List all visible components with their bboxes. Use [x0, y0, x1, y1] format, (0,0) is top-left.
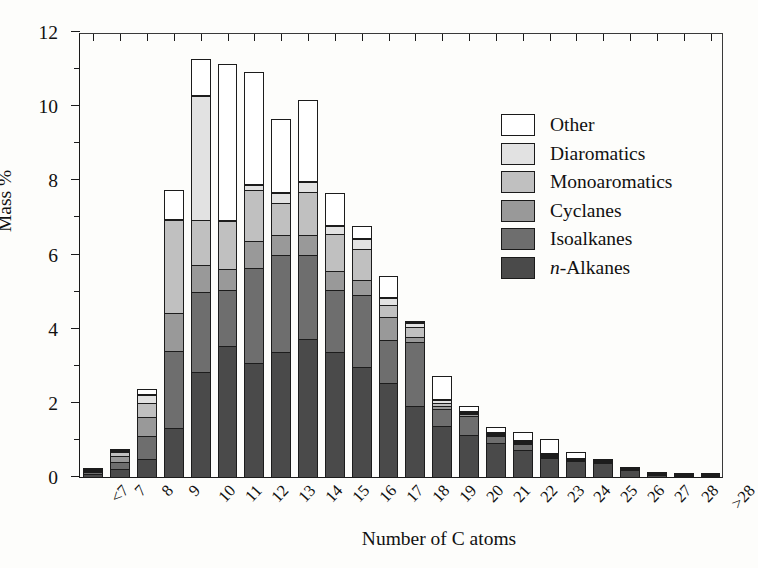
bar-segment	[191, 292, 211, 374]
bar-segment	[218, 290, 238, 347]
legend-swatch	[501, 200, 535, 222]
x-axis-tick-label: 22	[536, 481, 562, 507]
legend-label: Isoalkanes	[550, 228, 632, 250]
bar-segment	[352, 295, 372, 367]
bar-column	[593, 459, 613, 477]
bar-segment	[325, 290, 345, 353]
bar-segment	[352, 367, 372, 478]
bar-segment	[218, 221, 238, 269]
x-axis-tick	[201, 34, 202, 41]
bar-segment	[164, 351, 184, 429]
bar-segment	[218, 346, 238, 478]
bar-segment	[298, 100, 318, 182]
bar-segment	[218, 64, 238, 222]
bar-segment	[513, 450, 533, 478]
x-axis-tick-label: 13	[294, 481, 320, 507]
y-axis-tick-label: 4	[48, 319, 58, 341]
bar-segment	[271, 119, 291, 193]
x-axis-tick-label: 15	[348, 481, 374, 507]
bar-segment	[352, 226, 372, 239]
x-axis-tick	[254, 34, 255, 41]
y-axis-tick-label: 6	[48, 245, 58, 267]
x-axis-tick-label: 10	[214, 481, 240, 507]
y-axis-title: Mass %	[0, 170, 16, 232]
bar-segment	[164, 428, 184, 478]
bar-segment	[486, 443, 506, 478]
bar-column	[674, 473, 694, 477]
bar-segment	[325, 234, 345, 271]
x-axis-tick	[657, 34, 658, 41]
bar-segment	[674, 476, 694, 478]
y-axis-minor-tick	[74, 439, 80, 440]
bar-segment	[191, 220, 211, 266]
x-axis-tick	[415, 34, 416, 41]
bar-segment	[110, 469, 130, 478]
y-axis-tick-label: 8	[48, 170, 58, 192]
x-axis-tick-label: 25	[616, 481, 642, 507]
bar-segment	[459, 416, 479, 436]
bar-column	[647, 472, 667, 477]
x-axis-tick-label: 20	[482, 481, 508, 507]
x-axis-tick-label: 21	[509, 481, 535, 507]
y-axis-minor-tick	[74, 142, 80, 143]
x-axis-tick	[603, 34, 604, 41]
x-axis-tick-label: 18	[429, 481, 455, 507]
bar-segment	[191, 372, 211, 478]
x-axis-tick-label: 11	[241, 481, 266, 506]
bar-segment	[566, 461, 586, 478]
y-axis-tick-label: 2	[48, 393, 58, 415]
bar-column	[325, 193, 345, 477]
legend-item: Monoaromatics	[501, 168, 672, 197]
bar-segment	[566, 452, 586, 459]
x-axis-title: Number of C atoms	[0, 528, 758, 550]
y-axis-tick	[71, 254, 80, 255]
x-axis-tick-label: 19	[455, 481, 481, 507]
x-axis-tick	[335, 34, 336, 41]
bar-segment	[244, 363, 264, 478]
x-axis-tick	[120, 34, 121, 41]
bar-segment	[137, 459, 157, 478]
legend-item: n-Alkanes	[501, 254, 672, 283]
bar-segment	[298, 192, 318, 237]
bar-segment	[137, 436, 157, 460]
x-axis-tick	[523, 34, 524, 41]
x-axis-tick	[684, 34, 685, 41]
x-axis-tick	[469, 34, 470, 41]
bar-column	[137, 389, 157, 477]
bar-column	[620, 467, 640, 477]
bar-segment	[701, 476, 721, 478]
x-axis-tick	[362, 34, 363, 41]
bar-segment	[244, 190, 264, 242]
bar-segment	[271, 235, 291, 255]
bar-segment	[191, 59, 211, 96]
bar-segment	[540, 439, 560, 454]
x-axis-tick	[550, 34, 551, 41]
legend-item: Cyclanes	[501, 197, 672, 226]
bar-column	[405, 321, 425, 477]
bar-column	[218, 64, 238, 477]
x-axis-tick	[576, 34, 577, 41]
x-axis-tick	[496, 34, 497, 41]
bar-segment	[164, 190, 184, 220]
bar-segment	[271, 352, 291, 478]
bar-segment	[325, 352, 345, 478]
legend-label: Other	[550, 114, 594, 136]
x-axis-tick	[630, 34, 631, 41]
legend-label: n-Alkanes	[550, 257, 630, 279]
x-axis-tick-label: 23	[563, 481, 589, 507]
bar-segment	[379, 317, 399, 341]
x-axis-tick-label: >28	[727, 481, 758, 514]
bar-column	[513, 432, 533, 477]
bar-column	[191, 59, 211, 477]
bar-segment	[244, 72, 264, 185]
x-axis-tick	[228, 34, 229, 41]
bar-segment	[325, 271, 345, 291]
legend: OtherDiaromaticsMonoaromaticsCyclanesIso…	[501, 111, 672, 282]
y-axis-minor-tick	[74, 68, 80, 69]
bar-column	[432, 376, 452, 477]
bar-column	[110, 449, 130, 477]
y-axis-tick	[71, 328, 80, 329]
bar-segment	[325, 193, 345, 226]
x-axis-tick-label: 16	[375, 481, 401, 507]
x-axis-tick-label: 28	[697, 481, 723, 507]
